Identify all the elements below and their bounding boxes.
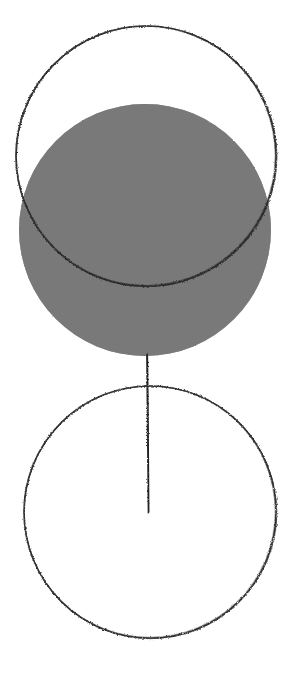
figure-canvas: Hand-drawn geometric figure [0,0,289,678]
filled-gray-circle [19,104,271,356]
figure-svg [0,0,289,678]
